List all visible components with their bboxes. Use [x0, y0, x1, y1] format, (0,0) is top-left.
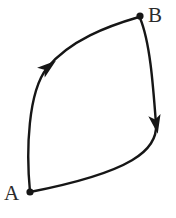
node-dot-b [136, 12, 143, 19]
node-label-a: A [4, 181, 20, 205]
node-dot-a [26, 188, 33, 195]
paths-diagram-canvas: A B [0, 0, 176, 218]
node-label-b: B [148, 3, 162, 27]
diagram-figure: A B [0, 0, 176, 218]
path-lower-b-to-a [30, 18, 156, 192]
